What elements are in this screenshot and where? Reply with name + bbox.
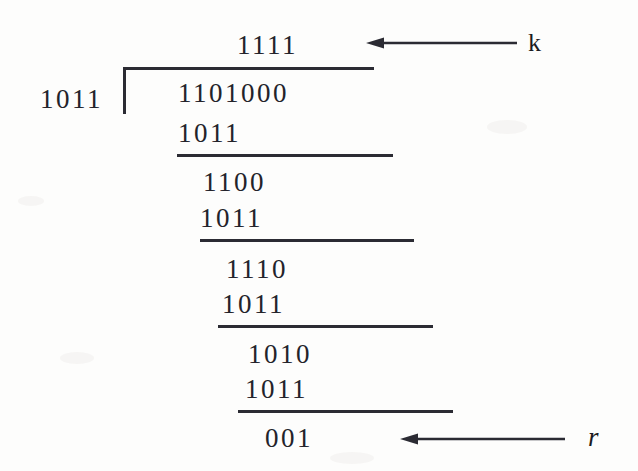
quotient-value: 1111 (237, 32, 298, 59)
division-bracket-top-rule (123, 67, 374, 70)
step-rule-4 (238, 410, 453, 413)
division-bracket-vertical-bar (123, 67, 126, 114)
paper-speck (487, 120, 527, 134)
subtrahend-3: 1011 (222, 291, 285, 318)
dividend-value: 1101000 (178, 80, 289, 107)
difference-3: 1010 (248, 341, 312, 368)
step-rule-2 (200, 239, 414, 242)
paper-speck (330, 452, 374, 464)
difference-2: 1110 (226, 256, 288, 283)
difference-1: 1100 (203, 169, 266, 196)
remainder-label-r: r (588, 424, 599, 451)
quotient-label-k: k (528, 30, 541, 56)
quotient-arrow-icon (366, 36, 518, 50)
subtrahend-2: 1011 (200, 205, 263, 232)
remainder-value: 001 (265, 425, 313, 452)
paper-speck (60, 352, 94, 364)
step-rule-1 (177, 154, 393, 157)
paper-speck (18, 196, 44, 206)
remainder-arrow-icon (400, 432, 566, 446)
binary-division-figure: 1111 k 1011 1101000 1011 1100 1011 1110 … (0, 0, 638, 471)
step-rule-3 (218, 325, 433, 328)
subtrahend-4: 1011 (245, 376, 308, 403)
divisor-value: 1011 (40, 86, 103, 113)
subtrahend-1: 1011 (178, 120, 241, 147)
